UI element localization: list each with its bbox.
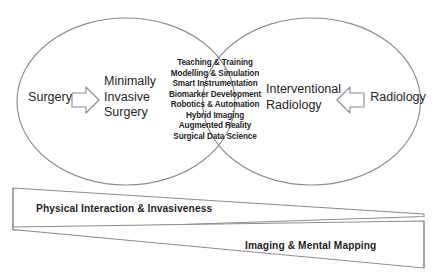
band-physical-interaction-label: Physical Interaction & Invasiveness — [36, 201, 212, 217]
overlap-topic-item: Surgical Data Science — [160, 132, 270, 143]
interventional-radiology-label: Interventional Radiology — [266, 82, 340, 113]
overlap-topic-item: Hybrid Imaging — [160, 111, 270, 122]
minimally-invasive-surgery-label: Minimally Invasive Surgery — [104, 74, 166, 121]
arrow-left-icon — [337, 87, 364, 113]
overlap-topic-item: Teaching & Training — [160, 58, 270, 69]
overlap-topic-item: Augmented Reality — [160, 121, 270, 132]
surgery-label: Surgery — [21, 90, 79, 106]
overlap-topic-item: Modelling & Simulation — [160, 69, 270, 80]
diagram-canvas: Surgery Minimally Invasive Surgery Inter… — [0, 0, 437, 274]
overlap-topic-item: Biomarker Development — [160, 90, 270, 101]
overlap-topic-list: Teaching & TrainingModelling & Simulatio… — [160, 58, 270, 142]
band-imaging-mapping-label: Imaging & Mental Mapping — [245, 238, 376, 254]
overlap-topic-item: Robotics & Automation — [160, 100, 270, 111]
overlap-topic-item: Smart Instrumentation — [160, 79, 270, 90]
radiology-label: Radiology — [366, 90, 430, 106]
